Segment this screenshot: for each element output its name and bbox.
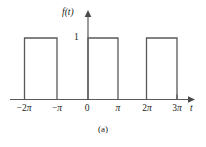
x-tick-label-zero: 0 xyxy=(85,104,90,114)
x-tick-label-minus-2pi: −2π xyxy=(17,104,32,114)
x-tick-label-minus-pi: −π xyxy=(52,104,62,114)
x-tick-label-2pi-text: 2 xyxy=(142,103,147,113)
x-tick-label-3pi-text: 3 xyxy=(172,103,177,113)
waveform-pulse-2 xyxy=(88,38,118,100)
x-tick-label-minus-pi-text: − xyxy=(52,103,57,113)
x-tick-label-pi: π xyxy=(116,104,121,114)
y-axis-label: f(t) xyxy=(62,8,74,18)
x-axis-arrow-icon xyxy=(188,96,195,103)
x-tick-label-3pi: 3π xyxy=(172,104,182,114)
waveform-pulse-3 xyxy=(147,38,178,100)
figure-container: f(t) 1 −2π −π 0 π 2π 3π t (a) xyxy=(0,0,206,147)
x-axis-label: t xyxy=(190,104,193,114)
y-axis-arrow-icon xyxy=(85,10,92,17)
waveform-pulse-1 xyxy=(25,38,58,100)
x-tick-label-minus-2pi-text: −2 xyxy=(17,103,27,113)
x-tick-label-2pi: 2π xyxy=(142,104,152,114)
figure-caption: (a) xyxy=(98,125,108,134)
x-tick-label-zero-text: 0 xyxy=(85,103,90,113)
y-value-label-1: 1 xyxy=(74,33,79,43)
